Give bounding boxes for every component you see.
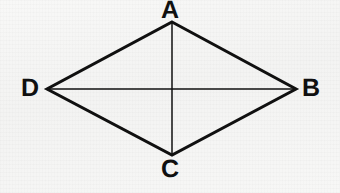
vertex-label-c: C <box>161 157 179 182</box>
vertex-label-a: A <box>161 0 179 23</box>
vertex-label-b: B <box>302 76 320 101</box>
rhombus-figure: A B C D <box>0 0 340 193</box>
vertex-label-d: D <box>21 76 39 101</box>
